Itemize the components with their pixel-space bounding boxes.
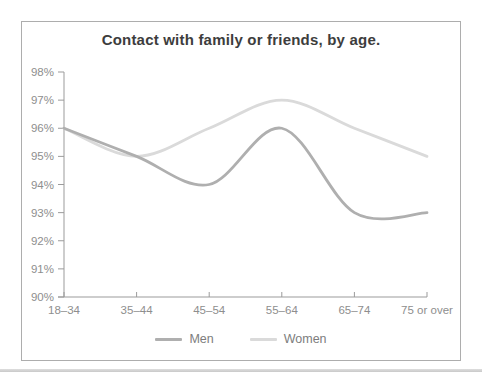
x-tick-label: 35–44 [121,304,154,316]
women-line-swatch [250,338,277,341]
x-tick-label: 55–64 [266,304,299,316]
x-tick-label: 75 or over [401,304,453,316]
men-line-swatch [155,338,182,341]
y-tick-label: 90% [31,291,54,303]
legend-label-women: Women [284,332,327,346]
y-tick-label: 96% [31,122,54,134]
y-tick-label: 95% [31,150,54,162]
y-tick-label: 94% [31,179,54,191]
legend-item-men: Men [155,332,213,346]
y-tick-label: 98% [31,66,54,78]
y-tick-label: 93% [31,207,54,219]
legend-label-men: Men [189,332,213,346]
line-chart-plot: 90%91%92%93%94%95%96%97%98%18–3435–4445–… [22,22,460,360]
y-tick-label: 92% [31,235,54,247]
y-tick-label: 97% [31,94,54,106]
page: Contact with family or friends, by age. … [0,0,482,382]
legend-item-women: Women [250,332,327,346]
x-tick-label: 18–34 [48,304,81,316]
y-tick-label: 91% [31,263,54,275]
page-bottom-separator [0,369,482,372]
x-tick-label: 65–74 [338,304,371,316]
chart-panel: Contact with family or friends, by age. … [21,21,461,361]
x-tick-label: 45–54 [193,304,226,316]
men-series-line [64,128,427,219]
chart-legend: Men Women [22,332,460,346]
